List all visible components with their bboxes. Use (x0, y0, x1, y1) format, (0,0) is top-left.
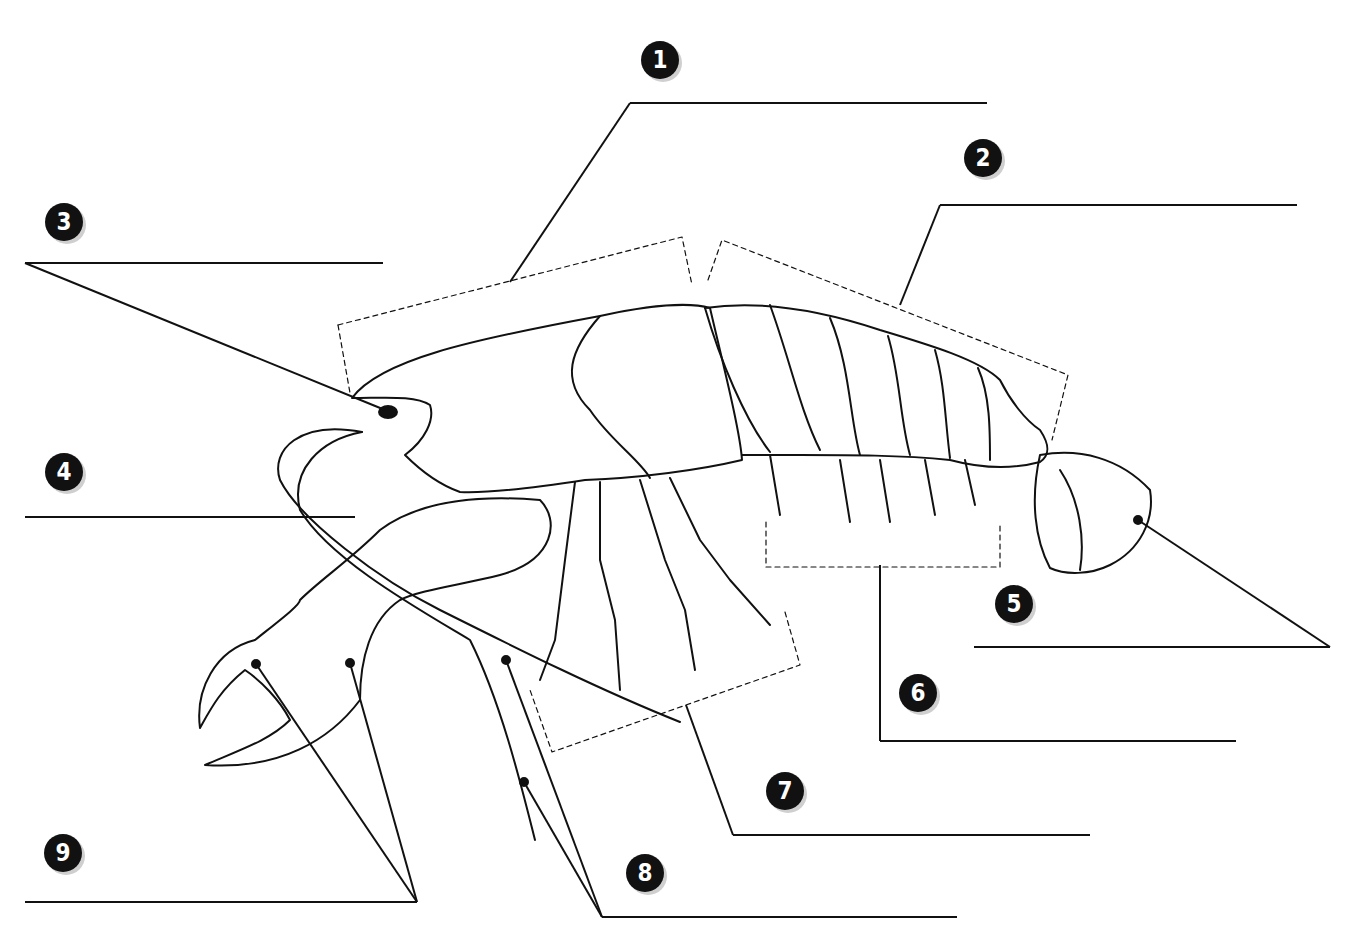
label-line-7 (686, 705, 733, 835)
walking-legs (540, 478, 770, 690)
label-line-9 (256, 664, 417, 902)
label-line-8 (506, 660, 602, 917)
label-line-9 (350, 663, 417, 902)
label-badge-5: 5 (995, 585, 1033, 623)
label-badge-3: 3 (45, 203, 83, 241)
carapace (352, 305, 742, 492)
label-badge-8: 8 (626, 854, 664, 892)
label-badge-1: 1 (641, 41, 679, 79)
label-badge-4: 4 (45, 453, 83, 491)
swimmerets (770, 455, 975, 522)
label-line-3 (25, 263, 385, 410)
cephalothorax-region-box (338, 237, 1068, 752)
label-badge-2: 2 (964, 139, 1002, 177)
label-lines (25, 103, 1330, 917)
abdomen (705, 305, 1048, 467)
label-line-2 (900, 205, 940, 305)
label-badge-6: 6 (899, 674, 937, 712)
label-badge-7: 7 (766, 772, 804, 810)
telson (1035, 453, 1151, 573)
label-line-8 (524, 782, 602, 917)
label-line-5 (1138, 520, 1330, 647)
label-badge-9: 9 (44, 834, 82, 872)
claw (199, 498, 551, 765)
crayfish-diagram (0, 0, 1357, 930)
